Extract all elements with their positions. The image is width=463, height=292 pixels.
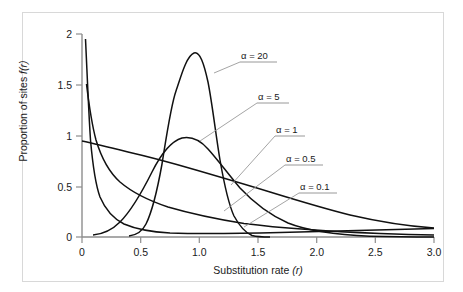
x-tick-label-2-5: 2.5 xyxy=(361,246,389,258)
leader-alpha-01 xyxy=(244,193,299,227)
curve-alpha-1 xyxy=(82,141,434,228)
series-label-alpha-0-1: α = 0.1 xyxy=(300,181,330,193)
x-axis-label-text: Substitution rate xyxy=(213,264,289,276)
x-axis-label-variable: (r) xyxy=(292,264,303,276)
annotation-leaders xyxy=(200,62,299,227)
x-axis-ticks xyxy=(82,237,434,243)
curve-alpha-0-1 xyxy=(86,39,435,234)
curve-alpha-0-5 xyxy=(87,84,435,235)
series-label-alpha-5: α = 5 xyxy=(258,91,280,103)
leader-alpha-5 xyxy=(200,103,257,141)
series-label-alpha-20: α = 20 xyxy=(241,50,268,62)
y-axis-label-text: Proportion of sites xyxy=(17,77,29,162)
leader-alpha-05 xyxy=(224,165,285,211)
x-tick-label-1-0: 1.0 xyxy=(185,246,213,258)
y-axis-label-variable: f(r) xyxy=(17,61,29,74)
x-axis-label: Substitution rate (r) xyxy=(82,264,434,276)
y-tick-label-1: 1 xyxy=(46,130,72,142)
y-tick-label-0: 0 xyxy=(46,231,72,243)
curve-alpha-20 xyxy=(129,53,270,237)
y-axis-label: Proportion of sites f(r) xyxy=(17,41,29,181)
leader-alpha-20 xyxy=(214,62,240,73)
y-tick-label-2: 2 xyxy=(46,28,72,40)
x-tick-label-1-5: 1.5 xyxy=(244,246,272,258)
y-tick-label-0-5: 0.5 xyxy=(46,181,72,193)
x-tick-label-3-0: 3.0 xyxy=(420,246,448,258)
x-tick-label-0: 0 xyxy=(68,246,96,258)
figure-container: 2 1.5 1 0.5 0 0 0.5 1.0 1.5 2.0 2.5 3.0 … xyxy=(0,0,463,292)
curve-group xyxy=(82,39,434,237)
series-label-alpha-0-5: α = 0.5 xyxy=(286,153,316,165)
y-tick-label-1-5: 1.5 xyxy=(46,79,72,91)
y-axis-ticks xyxy=(76,34,82,237)
series-label-alpha-1: α = 1 xyxy=(276,124,298,136)
x-tick-label-0-5: 0.5 xyxy=(127,246,155,258)
x-tick-label-2-0: 2.0 xyxy=(303,246,331,258)
axis-lines xyxy=(82,34,434,237)
